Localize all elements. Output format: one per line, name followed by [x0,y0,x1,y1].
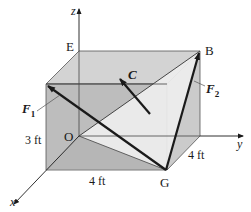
dimension-width-x: 4 ft [89,175,105,187]
z-axis-label: z [71,5,76,17]
y-axis-label: y [237,138,242,150]
box-force-diagram [0,0,251,212]
vector-F1-label: F1 [22,102,35,119]
point-G-label: G [160,176,169,189]
vector-F2-label: F2 [206,82,219,99]
x-axis-label: x [10,196,15,208]
point-B-label: B [205,44,214,57]
point-O-label: O [64,130,73,143]
dimension-depth-y: 4 ft [188,149,204,161]
dimension-height: 3 ft [25,134,41,146]
vector-C-label: C [128,68,137,81]
point-E-label: E [66,40,74,53]
